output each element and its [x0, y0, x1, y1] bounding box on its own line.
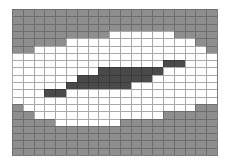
grid-cell-background [131, 126, 142, 133]
grid-cell-region [109, 60, 120, 67]
grid-cell-region [77, 97, 88, 104]
grid-cell-region [174, 75, 185, 82]
grid-cell-region [152, 31, 163, 38]
grid-cell-background [131, 133, 142, 140]
grid-cell-background [163, 16, 174, 23]
grid-cell-region [98, 60, 109, 67]
grid-cell-background [44, 9, 55, 16]
grid-cell-region [120, 89, 131, 96]
grid-cell-region [23, 60, 34, 67]
grid-cell-region [131, 31, 142, 38]
grid-cell-region [131, 82, 142, 89]
grid-cell-background [55, 9, 66, 16]
grid-cell-background [77, 9, 88, 16]
grid-cell-background [23, 133, 34, 140]
grid-cell-background [163, 24, 174, 31]
grid-cell-region [55, 104, 66, 111]
grid-cell-region [141, 89, 152, 96]
grid-cell-region [44, 67, 55, 74]
grid-cell-region [120, 111, 131, 118]
grid-cell-background [98, 126, 109, 133]
grid-cell-background [195, 119, 206, 126]
grid-cell-region [185, 97, 196, 104]
grid-cell-background [174, 111, 185, 118]
grid-cell-background [66, 140, 77, 147]
grid-cell-background [98, 148, 109, 155]
grid-cell-background [174, 148, 185, 155]
grid-cell-background [88, 9, 99, 16]
grid-cell-region [206, 60, 217, 67]
grid-cell-region [44, 97, 55, 104]
grid-cell-background [34, 9, 45, 16]
grid-cell-background [195, 16, 206, 23]
grid-cell-region [141, 97, 152, 104]
grid-cell-background [206, 111, 217, 118]
grid-cell-region [55, 75, 66, 82]
grid-cell-background [163, 133, 174, 140]
grid-cell-background [44, 119, 55, 126]
grid-cell-background [185, 148, 196, 155]
grid-cell-background [34, 24, 45, 31]
grid-cell-background [152, 126, 163, 133]
grid-cell-region [12, 75, 23, 82]
grid-cell-region [12, 89, 23, 96]
grid-cell-background [88, 126, 99, 133]
grid-cell-background [34, 38, 45, 45]
grid-cell-core [77, 75, 88, 82]
grid-cell-region [23, 67, 34, 74]
grid-cell-background [77, 31, 88, 38]
grid-cell-background [44, 126, 55, 133]
grid-cell-region [185, 67, 196, 74]
grid-cell-background [12, 104, 23, 111]
grid-cell-background [66, 16, 77, 23]
grid-cell-region [195, 75, 206, 82]
grid-cell-background [163, 140, 174, 147]
grid-cell-background [66, 9, 77, 16]
grid-cell-background [55, 16, 66, 23]
grid-cell-region [23, 82, 34, 89]
grid-cell-background [141, 9, 152, 16]
grid-cell-background [174, 133, 185, 140]
grid-cell-region [109, 97, 120, 104]
grid-cell-region [185, 82, 196, 89]
grid-cell-core [120, 67, 131, 74]
grid-cell-region [141, 46, 152, 53]
grid-cell-region [88, 111, 99, 118]
grid-cell-background [55, 140, 66, 147]
grid-cell-background [12, 16, 23, 23]
grid-cell-background [174, 119, 185, 126]
grid-cell-region [185, 53, 196, 60]
grid-cell-region [174, 53, 185, 60]
grid-cell-region [66, 53, 77, 60]
grid-cell-background [12, 31, 23, 38]
grid-cell-region [98, 89, 109, 96]
grid-cell-background [44, 140, 55, 147]
grid-cell-background [152, 16, 163, 23]
grid-cell-background [23, 140, 34, 147]
grid-cell-core [109, 82, 120, 89]
pixel-grid [12, 9, 218, 156]
grid-cell-background [109, 24, 120, 31]
grid-cell-region [185, 89, 196, 96]
grid-cell-region [98, 104, 109, 111]
grid-cell-region [174, 46, 185, 53]
grid-cell-region [120, 104, 131, 111]
grid-cell-background [131, 119, 142, 126]
grid-cell-background [23, 31, 34, 38]
grid-cell-region [88, 60, 99, 67]
grid-cell-region [206, 89, 217, 96]
grid-cell-region [98, 38, 109, 45]
grid-cell-region [120, 60, 131, 67]
grid-cell-background [66, 31, 77, 38]
grid-cell-region [141, 60, 152, 67]
grid-cell-background [88, 148, 99, 155]
grid-cell-region [34, 89, 45, 96]
grid-cell-background [120, 133, 131, 140]
grid-cell-region [131, 89, 142, 96]
grid-cell-core [77, 82, 88, 89]
grid-cell-core [44, 89, 55, 96]
grid-cell-region [152, 97, 163, 104]
grid-cell-background [195, 104, 206, 111]
grid-cell-background [206, 46, 217, 53]
grid-cell-region [34, 82, 45, 89]
